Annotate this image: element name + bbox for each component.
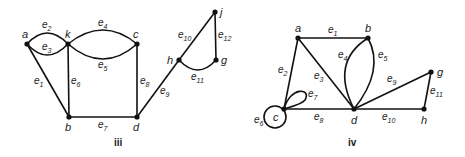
vertex-iv-a (295, 35, 300, 40)
edge-label-iii-e3: e3 (42, 41, 52, 54)
edge-label-iii-e6: e6 (71, 75, 81, 88)
vertex-label-iii-d: d (133, 121, 140, 133)
edge-iii-e9 (137, 60, 179, 117)
edge-label-iii-e1: e1 (34, 75, 44, 88)
edge-label-iv-e9: e9 (387, 73, 397, 86)
edge-iii-e12 (215, 12, 216, 60)
edge-label-iii-e9: e9 (160, 85, 170, 98)
figure-caption-iv: iv (348, 137, 357, 148)
figure-caption-iii: iii (114, 137, 123, 148)
vertex-iii-d (134, 114, 139, 119)
vertex-iii-h (176, 57, 181, 62)
edge-label-iii-e7: e7 (98, 119, 109, 132)
vertex-label-iv-c: c (273, 111, 279, 123)
edge-label-iv-e6: e6 (254, 114, 264, 127)
edge-label-iv-e2: e2 (278, 64, 288, 77)
vertex-iv-c (281, 106, 286, 111)
vertex-iii-j (212, 9, 217, 14)
vertex-label-iii-g: g (221, 54, 228, 66)
edge-label-iii-e5: e5 (98, 59, 108, 72)
edge-label-iii-e10: e10 (178, 29, 191, 42)
edge-label-iv-e4: e4 (338, 49, 348, 62)
vertex-iv-h (421, 106, 426, 111)
edge-label-iv-e5: e5 (378, 49, 388, 62)
vertex-label-iv-b: b (365, 22, 371, 34)
vertex-label-iv-g: g (437, 66, 444, 78)
edge-label-iv-e10: e10 (382, 111, 395, 124)
vertex-label-iii-c: c (133, 28, 139, 40)
vertex-iv-d (351, 106, 356, 111)
graph-iv: a b c d g h e1 e2 e3 e4 e5 e6 e7 e8 e9 e… (254, 22, 444, 148)
edge-label-iv-e3: e3 (314, 70, 324, 83)
graph-iii: a k c b d h g j e1 e2 e3 e4 e5 e6 e7 e8 … (22, 6, 231, 148)
vertex-label-iii-b: b (65, 121, 71, 133)
vertex-iv-b (365, 35, 370, 40)
edge-label-iii-e2: e2 (42, 19, 52, 32)
edge-iii-e5 (68, 44, 137, 59)
edge-iii-e6 (68, 44, 69, 117)
edge-iii-e11 (179, 60, 216, 70)
edge-label-iv-e11: e11 (430, 85, 443, 98)
vertex-label-iv-a: a (295, 22, 301, 34)
edge-iii-e4 (68, 30, 137, 44)
edge-label-iii-e8: e8 (140, 75, 150, 88)
edge-label-iii-e4: e4 (98, 17, 108, 30)
vertex-label-iii-h: h (167, 54, 173, 66)
edge-label-iii-e11: e11 (191, 71, 204, 84)
vertex-label-iv-h: h (421, 114, 427, 126)
edge-label-iv-e7: e7 (308, 88, 319, 101)
vertex-iii-a (24, 41, 29, 46)
vertex-iii-c (134, 41, 139, 46)
vertex-iii-g (213, 57, 218, 62)
vertex-label-iii-k: k (65, 28, 71, 40)
edge-label-iv-e1: e1 (328, 24, 338, 37)
vertex-iv-g (428, 69, 433, 74)
edge-iv-e5 (354, 38, 374, 109)
edge-iv-e4 (345, 38, 368, 109)
graph-figures: a k c b d h g j e1 e2 e3 e4 e5 e6 e7 e8 … (0, 0, 465, 157)
vertex-label-iii-a: a (22, 28, 28, 40)
vertex-iii-b (66, 114, 71, 119)
edge-label-iv-e8: e8 (314, 111, 324, 124)
vertex-iii-k (65, 41, 70, 46)
vertex-label-iii-j: j (218, 6, 223, 18)
edge-label-iii-e12: e12 (218, 29, 231, 42)
vertex-label-iv-d: d (351, 114, 358, 126)
